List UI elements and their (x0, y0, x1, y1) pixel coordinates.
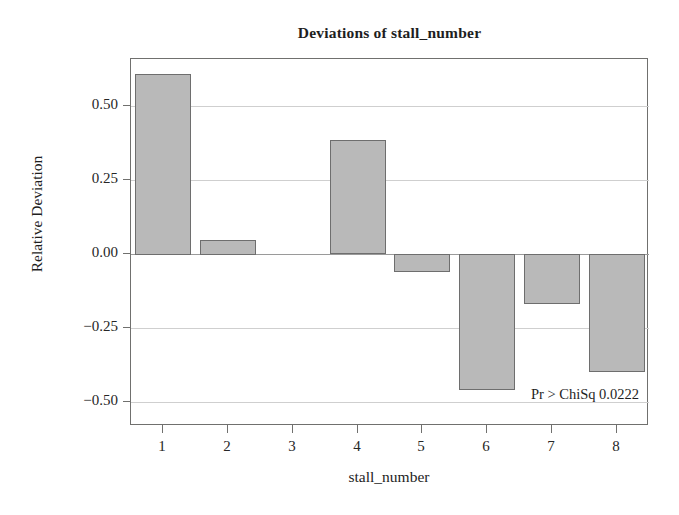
y-axis-tick (123, 327, 131, 328)
bar (330, 140, 386, 254)
y-axis-tick-label: −0.25 (52, 318, 118, 335)
x-axis-tick (357, 425, 358, 433)
x-axis-title: stall_number (130, 468, 648, 486)
x-axis-tick-label: 3 (272, 438, 312, 455)
y-axis-tick (123, 253, 131, 254)
x-axis-tick (162, 425, 163, 433)
x-axis-tick-label: 7 (531, 438, 571, 455)
x-axis-tick-label: 1 (142, 438, 182, 455)
chi-square-annotation: Pr > ChiSq 0.0222 (531, 386, 639, 403)
y-axis-tick (123, 105, 131, 106)
chart-title: Deviations of stall_number (130, 24, 649, 42)
gridline (131, 106, 649, 107)
x-axis-tick (227, 425, 228, 433)
bar (459, 254, 515, 390)
y-axis-tick (123, 401, 131, 402)
plot-area: Pr > ChiSq 0.0222 (130, 58, 648, 425)
y-axis-tick-label-wrap: −0.50 (46, 392, 118, 410)
bar (589, 254, 645, 372)
y-axis-tick-label: 0.00 (52, 244, 118, 261)
bar (394, 254, 450, 272)
bar (524, 254, 580, 304)
y-axis-tick-label: 0.25 (52, 170, 118, 187)
bar (200, 240, 256, 255)
y-axis-tick (123, 179, 131, 180)
x-axis-tick (421, 425, 422, 433)
bar (135, 74, 191, 255)
y-axis-title: Relative Deviation (28, 124, 46, 304)
y-axis-tick-label-wrap: 0.50 (46, 96, 118, 114)
y-axis-tick-label-wrap: 0.25 (46, 170, 118, 188)
x-axis-tick-label: 2 (207, 438, 247, 455)
x-axis-tick (292, 425, 293, 433)
x-axis-tick-label: 4 (337, 438, 377, 455)
y-axis-tick-label: −0.50 (52, 392, 118, 409)
x-axis-tick-label: 6 (466, 438, 506, 455)
y-axis-tick-label-wrap: −0.25 (46, 318, 118, 336)
x-axis-tick (616, 425, 617, 433)
gridline (131, 180, 649, 181)
y-axis-tick-label: 0.50 (52, 96, 118, 113)
x-axis-tick-label: 5 (401, 438, 441, 455)
x-axis-tick (551, 425, 552, 433)
x-axis-tick-label: 8 (596, 438, 636, 455)
gridline (131, 328, 649, 329)
x-axis-tick (486, 425, 487, 433)
y-axis-tick-label-wrap: 0.00 (46, 244, 118, 262)
bar-chart-figure: Deviations of stall_number Relative Devi… (0, 0, 679, 515)
